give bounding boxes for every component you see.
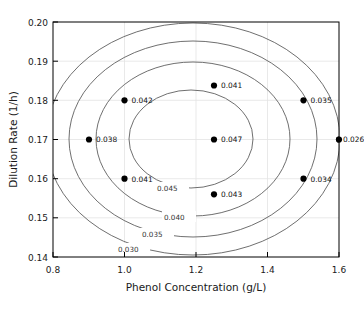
contour-label-0.035: 0.035 xyxy=(142,230,163,239)
point-value-label: 0.038 xyxy=(96,135,117,144)
ytick-label-0.14: 0.14 xyxy=(28,253,48,263)
point-marker[interactable] xyxy=(300,97,306,103)
data-points: 0.042 0.041 0.035 0.038 0.047 xyxy=(86,81,364,199)
contour-label-0.040: 0.040 xyxy=(164,213,185,222)
y-axis-title: Dilution Rate (1/h) xyxy=(7,91,19,188)
xtick-label-0.8: 0.8 xyxy=(46,265,61,275)
point-marker[interactable] xyxy=(86,136,92,142)
point-marker[interactable] xyxy=(211,82,217,88)
ytick-label-0.18: 0.18 xyxy=(28,96,48,106)
contour-curve-0.040 xyxy=(96,62,290,216)
contour-label-0.030: 0.030 xyxy=(118,245,139,254)
mask-top xyxy=(0,0,364,22)
point-value-label: 0.034 xyxy=(311,175,332,184)
xtick-label-1.0: 1.0 xyxy=(117,265,132,275)
point-value-label: 0.047 xyxy=(221,135,242,144)
data-point[interactable]: 0.041 xyxy=(211,81,243,90)
point-value-label: 0.026 xyxy=(343,135,364,144)
point-marker[interactable] xyxy=(211,191,217,197)
data-point[interactable]: 0.041 xyxy=(121,175,153,184)
point-value-label: 0.041 xyxy=(221,81,242,90)
mask-right xyxy=(340,0,364,309)
xtick-label-1.2: 1.2 xyxy=(189,265,203,275)
point-value-label: 0.041 xyxy=(132,175,153,184)
ytick-label-0.16: 0.16 xyxy=(28,174,48,184)
ytick-label-0.19: 0.19 xyxy=(28,57,48,67)
chart-canvas: 0.045 0.040 0.035 0.030 0.042 0.041 xyxy=(0,0,364,309)
data-point[interactable]: 0.047 xyxy=(211,135,243,144)
point-value-label: 0.042 xyxy=(132,96,153,105)
point-value-label: 0.043 xyxy=(221,190,242,199)
ytick-label-0.20: 0.20 xyxy=(28,18,48,28)
point-marker[interactable] xyxy=(300,176,306,182)
data-point[interactable]: 0.042 xyxy=(121,96,152,105)
ytick-label-0.15: 0.15 xyxy=(28,213,48,223)
data-point[interactable]: 0.043 xyxy=(211,190,243,199)
point-value-label: 0.035 xyxy=(311,96,332,105)
plot-clip-mask xyxy=(0,0,364,309)
point-marker[interactable] xyxy=(121,176,127,182)
data-point[interactable]: 0.034 xyxy=(300,175,332,184)
point-marker[interactable] xyxy=(121,97,127,103)
x-axis-title: Phenol Concentration (g/L) xyxy=(126,281,267,293)
xtick-label-1.4: 1.4 xyxy=(260,265,275,275)
data-point[interactable]: 0.038 xyxy=(86,135,118,144)
contour-label-0.045: 0.045 xyxy=(157,184,178,193)
contour-plot-figure: 0.045 0.040 0.035 0.030 0.042 0.041 xyxy=(0,0,364,309)
xtick-label-1.6: 1.6 xyxy=(332,265,347,275)
point-marker[interactable] xyxy=(211,136,217,142)
ytick-label-0.17: 0.17 xyxy=(28,135,48,145)
